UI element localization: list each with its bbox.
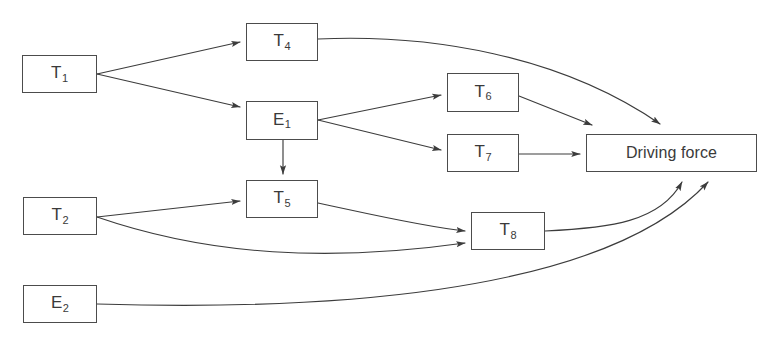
node-t5[interactable]: T5 — [246, 180, 318, 218]
node-e1-label: E1 — [273, 111, 291, 131]
node-t2[interactable]: T2 — [23, 197, 97, 235]
edge-e1-t7 — [318, 120, 441, 150]
node-t5-label: T5 — [273, 189, 290, 209]
edge-t2-t5 — [97, 201, 240, 217]
edge-t6-driving-force — [519, 96, 592, 125]
node-t7[interactable]: T7 — [447, 134, 519, 172]
edge-e2-driving-force — [97, 182, 708, 305]
node-driving-force-label: Driving force — [626, 145, 717, 161]
node-driving-force[interactable]: Driving force — [586, 134, 757, 172]
edge-t1-t4 — [97, 42, 240, 74]
node-t8-label: T8 — [499, 221, 516, 241]
edge-e1-t6 — [318, 95, 441, 120]
node-t4[interactable]: T4 — [246, 23, 318, 61]
edge-t5-t8 — [318, 203, 465, 231]
edge-t1-e1 — [97, 74, 240, 107]
node-t1-label: T1 — [51, 64, 68, 84]
diagram-canvas: T1 T2 E2 T4 E1 T5 T6 T7 T8 Driving force — [0, 0, 775, 339]
node-t4-label: T4 — [273, 32, 290, 52]
node-e2[interactable]: E2 — [23, 285, 97, 323]
edge-t8-driving-force — [545, 182, 682, 231]
node-t6[interactable]: T6 — [447, 73, 519, 112]
node-e2-label: E2 — [51, 294, 69, 314]
node-t6-label: T6 — [474, 83, 491, 103]
node-e1[interactable]: E1 — [246, 101, 318, 140]
node-t2-label: T2 — [51, 206, 68, 226]
node-t8[interactable]: T8 — [471, 212, 545, 250]
node-t1[interactable]: T1 — [22, 55, 97, 93]
node-t7-label: T7 — [474, 143, 491, 163]
